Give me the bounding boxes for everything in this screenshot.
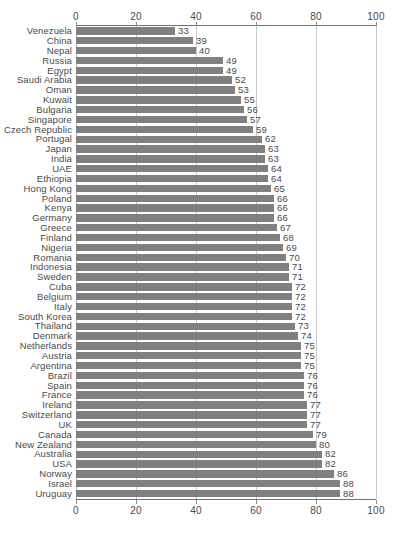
bar[interactable]: [76, 96, 241, 103]
bar-track: 39: [76, 36, 376, 46]
bar[interactable]: [76, 263, 289, 270]
bar[interactable]: [76, 352, 301, 359]
bar-track: 69: [76, 243, 376, 253]
bar-track: 76: [76, 390, 376, 400]
bar[interactable]: [76, 106, 244, 113]
bar[interactable]: [76, 126, 253, 133]
bar-value-label: 56: [247, 105, 258, 115]
bar[interactable]: [76, 421, 307, 428]
category-label: Finland: [0, 233, 72, 243]
tick-label-top-0: 0: [73, 11, 79, 22]
bar[interactable]: [76, 391, 304, 398]
category-label: UK: [0, 420, 72, 430]
bar[interactable]: [76, 57, 223, 64]
bar[interactable]: [76, 165, 268, 172]
bar-track: 79: [76, 430, 376, 440]
bar-value-label: 64: [271, 174, 282, 184]
bar[interactable]: [76, 37, 193, 44]
tick-label-top-40: 40: [190, 11, 202, 22]
bar-track: 77: [76, 410, 376, 420]
tick-mark-bottom-0: [76, 500, 77, 504]
tick-mark-bottom-100: [376, 500, 377, 504]
bar[interactable]: [76, 283, 292, 290]
tick-mark-bottom-80: [316, 500, 317, 504]
bottom-axis-line: [76, 499, 376, 500]
bar[interactable]: [76, 234, 280, 241]
bar[interactable]: [76, 116, 247, 123]
bar[interactable]: [76, 27, 175, 34]
bar[interactable]: [76, 342, 301, 349]
bar[interactable]: [76, 67, 223, 74]
bar[interactable]: [76, 411, 307, 418]
bar[interactable]: [76, 204, 274, 211]
bar-value-label: 79: [316, 430, 327, 440]
bar[interactable]: [76, 362, 301, 369]
bar-value-label: 57: [250, 115, 261, 125]
bar[interactable]: [76, 244, 283, 251]
bar-track: 73: [76, 321, 376, 331]
bar[interactable]: [76, 431, 313, 438]
category-label: Nepal: [0, 46, 72, 56]
bar[interactable]: [76, 382, 304, 389]
bar-track: 66: [76, 203, 376, 213]
bar[interactable]: [76, 293, 292, 300]
bar[interactable]: [76, 195, 274, 202]
bar[interactable]: [76, 47, 196, 54]
bar[interactable]: [76, 175, 268, 182]
category-label: Brazil: [0, 371, 72, 381]
bar[interactable]: [76, 214, 274, 221]
bar-track: 49: [76, 56, 376, 66]
bar-value-label: 75: [304, 361, 315, 371]
bar[interactable]: [76, 460, 322, 467]
bar-track: 66: [76, 193, 376, 203]
bar-track: 63: [76, 154, 376, 164]
bar-track: 53: [76, 85, 376, 95]
category-label: Hong Kong: [0, 184, 72, 194]
bar-track: 86: [76, 469, 376, 479]
bar-track: 77: [76, 400, 376, 410]
bar[interactable]: [76, 145, 265, 152]
bar[interactable]: [76, 490, 340, 497]
bar[interactable]: [76, 313, 292, 320]
bar-value-label: 68: [283, 233, 294, 243]
bar-track: 77: [76, 420, 376, 430]
bar[interactable]: [76, 480, 340, 487]
bar-row: Brazil76: [0, 371, 406, 381]
bar[interactable]: [76, 185, 271, 192]
bar[interactable]: [76, 86, 235, 93]
bar[interactable]: [76, 224, 277, 231]
bar[interactable]: [76, 303, 292, 310]
bar[interactable]: [76, 470, 334, 477]
bar[interactable]: [76, 451, 322, 458]
bar-row: Hong Kong65: [0, 184, 406, 194]
bar-track: 57: [76, 115, 376, 125]
bar[interactable]: [76, 254, 286, 261]
bar-track: 88: [76, 479, 376, 489]
bar[interactable]: [76, 76, 232, 83]
bar-track: 75: [76, 361, 376, 371]
bar[interactable]: [76, 155, 265, 162]
tick-label-top-20: 20: [130, 11, 142, 22]
bar-value-label: 69: [286, 243, 297, 253]
tick-label-top-100: 100: [367, 11, 385, 22]
bar[interactable]: [76, 401, 307, 408]
bar-track: 66: [76, 213, 376, 223]
bar-track: 49: [76, 65, 376, 75]
bar[interactable]: [76, 441, 316, 448]
bar[interactable]: [76, 332, 298, 339]
bar-track: 55: [76, 95, 376, 105]
bar[interactable]: [76, 136, 262, 143]
bar-track: 72: [76, 311, 376, 321]
bar[interactable]: [76, 273, 289, 280]
bar-track: 74: [76, 331, 376, 341]
bar-track: 76: [76, 380, 376, 390]
bar-row: Russia49: [0, 56, 406, 66]
bar-track: 72: [76, 282, 376, 292]
bar[interactable]: [76, 323, 295, 330]
bar-track: 64: [76, 174, 376, 184]
bar-track: 59: [76, 124, 376, 134]
bar-track: 71: [76, 262, 376, 272]
bar[interactable]: [76, 372, 304, 379]
bar-track: 33: [76, 26, 376, 36]
tick-label-bottom-80: 80: [310, 505, 322, 516]
